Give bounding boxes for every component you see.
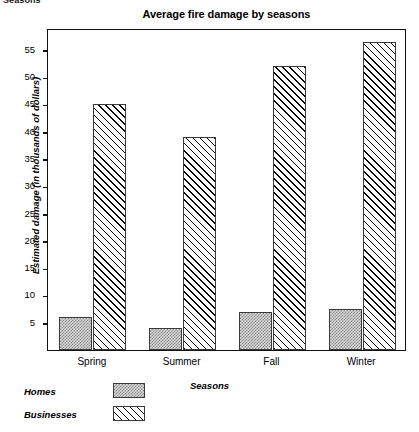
bar-summer-businesses — [183, 137, 216, 350]
y-axis-label: Estimated damage (in thousands of dollar… — [30, 61, 41, 291]
x-axis-tick-label: Winter — [347, 356, 376, 367]
y-axis-tick-label: 40 — [24, 126, 35, 137]
bar-fall-businesses — [273, 66, 306, 350]
bar-summer-homes — [149, 328, 182, 350]
y-axis-tick-label: 55 — [24, 44, 35, 55]
x-axis-tick-label: Spring — [77, 356, 106, 367]
chart-title: Average fire damage by seasons — [47, 8, 406, 20]
y-axis-tick-label: 50 — [24, 71, 35, 82]
legend-swatch — [113, 383, 145, 398]
y-axis-tick-label: 25 — [24, 208, 35, 219]
y-axis-tick-label: 30 — [24, 180, 35, 191]
bar-winter-homes — [329, 309, 362, 350]
clipped-header-text: Seasons — [3, 0, 41, 5]
legend-label: Homes — [24, 386, 108, 397]
legend-item-businesses: Businesses — [24, 405, 194, 425]
chart-page: Seasons Average fire damage by seasons E… — [0, 0, 419, 432]
bar-fall-homes — [239, 312, 272, 350]
legend-item-homes: Homes — [24, 382, 194, 402]
y-axis-tick-label: 20 — [24, 235, 35, 246]
bar-winter-businesses — [363, 42, 396, 350]
y-axis-tick-label: 35 — [24, 153, 35, 164]
y-axis-tick-label: 15 — [24, 262, 35, 273]
x-axis-tick-label: Summer — [163, 356, 201, 367]
y-axis-tick-label: 10 — [24, 289, 35, 300]
legend-label: Businesses — [24, 409, 108, 420]
y-axis-tick-label: 5 — [30, 317, 35, 328]
bar-spring-homes — [59, 317, 92, 350]
plot-area — [47, 29, 406, 351]
legend-swatch — [113, 406, 145, 421]
chart-legend: HomesBusinesses — [24, 382, 194, 428]
x-axis-tick-label: Fall — [263, 356, 279, 367]
bar-spring-businesses — [93, 104, 126, 350]
y-axis-tick-label: 45 — [24, 98, 35, 109]
